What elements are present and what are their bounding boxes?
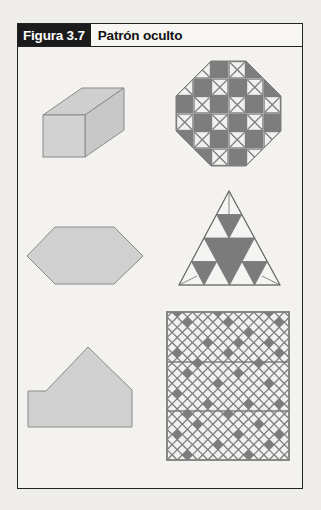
diamond-grid-square bbox=[158, 303, 299, 475]
figure-artwork bbox=[0, 0, 321, 510]
rectangular-prism bbox=[43, 88, 124, 157]
octagon-pattern bbox=[176, 61, 281, 166]
hexagon bbox=[27, 227, 143, 284]
house-pentagon bbox=[28, 347, 132, 427]
sierpinski-triangle bbox=[179, 191, 280, 285]
